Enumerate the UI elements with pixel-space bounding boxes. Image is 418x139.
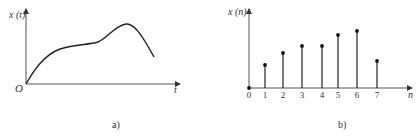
panel-a-label: a) [112, 119, 120, 131]
x-tick-label: 2 [281, 90, 286, 100]
x-tick-label: 6 [355, 90, 360, 100]
y-axis-label: x (t) [8, 9, 26, 21]
panel-b-discrete-signal: x (n) n 01234567 b) [227, 6, 413, 131]
x-axis-label: n [408, 89, 413, 100]
x-tick-label: 1 [263, 90, 268, 100]
signal-curve [26, 24, 154, 84]
stems [247, 29, 379, 90]
origin-label: O [15, 82, 23, 94]
x-tick-label: 7 [375, 90, 380, 100]
x-tick-label: 0 [247, 90, 252, 100]
stem-marker [375, 59, 379, 63]
panel-a-continuous-signal: x (t) O t a) [8, 9, 180, 131]
stem-marker [336, 33, 340, 37]
tick-labels: 01234567 [247, 90, 380, 100]
panel-b-label: b) [338, 119, 346, 131]
x-axis-label: t [174, 84, 177, 95]
x-tick-label: 3 [300, 90, 305, 100]
x-tick-label: 4 [320, 90, 325, 100]
stem-marker [263, 63, 267, 67]
stem-marker [300, 44, 304, 48]
figure: x (t) O t a) x (n) n 01234567 b) [0, 0, 418, 139]
stem-marker [355, 29, 359, 33]
stem-marker [281, 51, 285, 55]
x-tick-label: 5 [336, 90, 341, 100]
y-axis-label: x (n) [227, 6, 247, 18]
stem-marker [320, 44, 324, 48]
